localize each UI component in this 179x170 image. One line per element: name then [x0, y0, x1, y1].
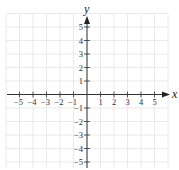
y-tick-label: 1: [79, 76, 83, 86]
x-tick-label: 2: [112, 97, 116, 107]
x-tick-label: −2: [54, 97, 63, 107]
x-tick-label: 4: [139, 97, 144, 107]
y-tick-label: −5: [74, 157, 83, 167]
coordinate-plane: x y −5−4−3−2−11234554321−1−2−3−4−5: [0, 0, 179, 170]
y-axis-arrow-icon: [84, 16, 90, 24]
x-tick-label: 3: [125, 97, 129, 107]
y-axis-label: y: [83, 2, 90, 16]
x-tick-label: 1: [98, 97, 102, 107]
x-axis-label: x: [171, 87, 178, 101]
x-tick-label: −5: [14, 97, 23, 107]
x-tick-label: −4: [27, 97, 37, 107]
y-tick-label: −4: [74, 144, 84, 154]
y-tick-label: −3: [74, 130, 83, 140]
x-axis-arrow-icon: [162, 92, 170, 98]
x-tick-label: 5: [152, 97, 156, 107]
y-tick-label: 2: [79, 63, 83, 73]
y-tick-label: 3: [79, 49, 83, 59]
y-tick-label: 5: [79, 22, 83, 32]
y-tick-label: −2: [74, 117, 83, 127]
x-tick-label: −3: [41, 97, 50, 107]
y-tick-label: −1: [74, 103, 83, 113]
